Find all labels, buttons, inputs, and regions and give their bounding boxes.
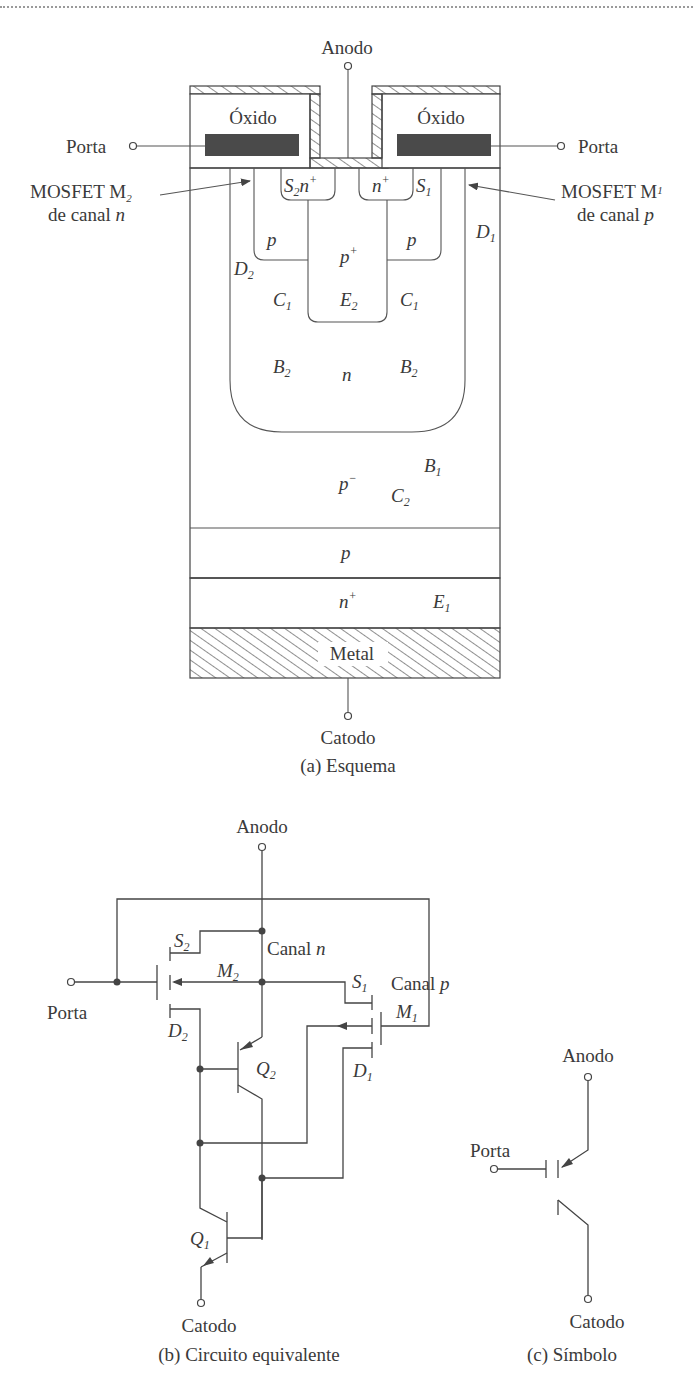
circuit-gate-label: Porta: [47, 1002, 88, 1023]
symbol-gate-terminal-icon: [491, 1166, 498, 1173]
m1-body-wire: [200, 1026, 372, 1143]
oxide-left-label: Óxido: [229, 107, 277, 128]
s2n-plus-label: S2n+: [284, 173, 317, 199]
circuit-gate-terminal-icon: [68, 979, 75, 986]
schematic-cathode-label: Catodo: [321, 727, 376, 748]
canal-p-label: Canal p: [391, 973, 450, 994]
b1-label: B1: [424, 455, 442, 479]
mosfet-m2-channel: de canal n: [48, 204, 125, 225]
p-minus-label: p−: [337, 471, 357, 494]
c1-left-label: C1: [273, 289, 292, 313]
mosfet-m1-label: MOSFET M1: [561, 181, 663, 202]
circuit-s1-label: S1: [352, 971, 368, 995]
p-right-label: p: [405, 229, 417, 250]
schematic-caption: (a) Esquema: [300, 755, 396, 777]
q1-collector-wire: [200, 1137, 227, 1222]
cathode-terminal-icon: [345, 713, 352, 720]
circuit-caption: (b) Circuito equivalente: [158, 1344, 340, 1366]
mosfet-m2-label: MOSFET M2: [30, 181, 132, 204]
gate-left-terminal-icon: [130, 143, 137, 150]
p-layer-label: p: [339, 542, 351, 563]
mct-figure: Anodo Óxido Óxido Porta Porta: [0, 0, 693, 1373]
circuit-cathode-terminal-icon: [198, 1300, 205, 1307]
junction-dot: [114, 979, 121, 986]
n-plus-right-label: n+: [372, 173, 390, 196]
circuit-anode-label: Anodo: [236, 816, 288, 837]
p-plus-label: p+: [338, 244, 358, 267]
m2-pointer-arrow: [160, 181, 250, 195]
junction-dot: [259, 928, 266, 935]
e1-label: E1: [432, 591, 451, 615]
q2-emitter-arrow-icon: [240, 1041, 253, 1050]
symbol-caption: (c) Símbolo: [527, 1344, 617, 1366]
region-labels: S2n+ n+ S1 p p p+ D2 D1 C1 C1 E2 B2 B2 n…: [233, 173, 496, 615]
q2-collector-wire: [238, 1085, 262, 1240]
equivalent-circuit: Anodo Porta: [47, 816, 450, 1366]
circuit-q2-label: Q2: [256, 1058, 276, 1082]
symbol-anode-terminal-icon: [585, 1074, 592, 1081]
gate-left-label: Porta: [66, 136, 107, 157]
circuit-d1-label: D1: [352, 1060, 373, 1084]
oxide-right: Óxido: [372, 86, 500, 168]
b2-right-label: B2: [400, 356, 418, 380]
circuit-anode-terminal-icon: [259, 844, 266, 851]
anode-metal-contact: [310, 158, 388, 168]
c1-right-label: C1: [400, 289, 419, 313]
q1-emitter-arrow-icon: [203, 1257, 214, 1266]
b2-left-label: B2: [273, 356, 291, 380]
schematic: Anodo Óxido Óxido Porta Porta: [30, 37, 663, 777]
schematic-anode-label: Anodo: [321, 37, 373, 58]
oxide-left: Óxido: [190, 86, 320, 168]
gate-right-label: Porta: [578, 136, 619, 157]
circuit-labels: S2 Canal n M2 S1 Canal p M1 D2 Q2 D1 Q1: [167, 930, 450, 1252]
c2-label: C2: [391, 485, 410, 509]
n-plus-bottom-label: n+: [339, 589, 357, 612]
circuit-cathode-label: Catodo: [182, 1315, 237, 1336]
circuit-q1-label: Q1: [190, 1228, 210, 1252]
symbol-cathode-terminal-icon: [585, 1296, 592, 1303]
symbol-anode-label: Anodo: [562, 1045, 614, 1066]
m1-pointer-arrow: [469, 185, 555, 200]
oxide-right-label: Óxido: [417, 107, 465, 128]
circuit-m1-label: M1: [395, 1001, 418, 1025]
gate-right-terminal-icon: [558, 143, 565, 150]
e2-label: E2: [339, 289, 358, 313]
s1-label: S1: [416, 175, 432, 199]
n-well-label: n: [342, 364, 352, 385]
metal-label: Metal: [330, 643, 374, 664]
q1-base-wire: [227, 1178, 262, 1238]
symbol-arrow-icon: [561, 1158, 573, 1168]
canal-n-label: Canal n: [267, 938, 326, 959]
symbol-anode-wire: [562, 1081, 588, 1167]
mct-symbol: Anodo Porta Catodo (c) Símbolo: [470, 1045, 624, 1366]
mosfet-m1-channel: de canal p: [577, 204, 654, 225]
p-left-label: p: [265, 229, 277, 250]
symbol-cathode-label: Catodo: [570, 1311, 625, 1332]
junction-dot: [197, 1066, 204, 1073]
symbol-gate-label: Porta: [470, 1140, 511, 1161]
circuit-m2-label: M2: [216, 960, 239, 984]
anode-terminal-icon: [345, 63, 352, 70]
d2-label: D2: [233, 258, 254, 282]
circuit-d2-label: D2: [167, 1020, 188, 1044]
m2-body-arrow-icon: [172, 978, 182, 986]
gate-loop-wire: [117, 899, 429, 1026]
circuit-s2-label: S2: [174, 930, 190, 954]
d1-label: D1: [475, 221, 496, 245]
m1-body-arrow-icon: [337, 1022, 347, 1030]
symbol-cathode-wire: [558, 1200, 588, 1295]
